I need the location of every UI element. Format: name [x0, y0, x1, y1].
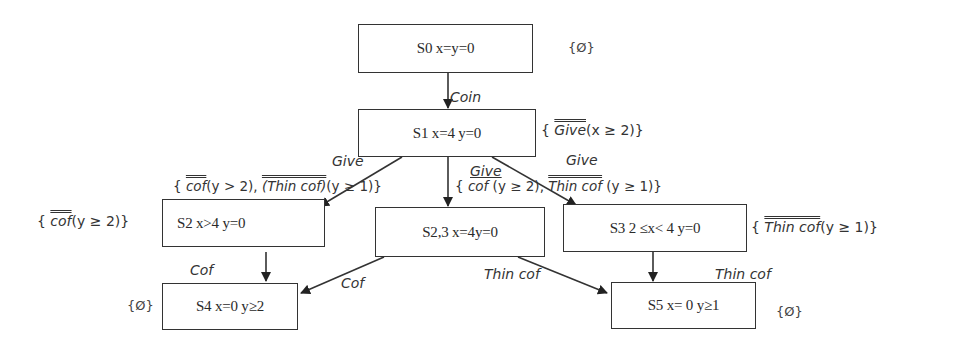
- label-give-s23: Give: [470, 163, 502, 179]
- set-s2: { cof(y ≥ 2)}: [37, 213, 129, 229]
- state-s4-label: S4 x=0 y≥2: [196, 298, 264, 315]
- set-edge-s23: { cof (y ≥ 2), Thin cof (y ≥ 1)}: [455, 178, 662, 194]
- state-s4: S4 x=0 y≥2: [162, 283, 298, 330]
- state-s23: S2,3 x=4y=0: [375, 207, 545, 257]
- state-s1-label: S1 x=4 y=0: [413, 125, 481, 142]
- label-give-s3: Give: [566, 152, 598, 168]
- set-s4: {Ø}: [127, 298, 154, 313]
- set-edge-s2: { cof(y > 2), (Thin cof)(y ≥ 1)}: [173, 178, 382, 194]
- label-cof-s2: Cof: [190, 262, 213, 278]
- state-s3: S3 2 ≤x< 4 y=0: [563, 204, 747, 252]
- set-s3: { Thin cof(y ≥ 1)}: [751, 219, 878, 235]
- set-s1: { Give(x ≥ 2)}: [541, 122, 644, 138]
- label-coin: Coin: [450, 89, 481, 105]
- label-thincof-s23: Thin cof: [484, 266, 540, 282]
- state-s23-label: S2,3 x=4y=0: [422, 224, 498, 241]
- state-s1: S1 x=4 y=0: [358, 109, 536, 157]
- set-s0: {Ø}: [568, 40, 595, 55]
- state-s2-label: S2 x>4 y=0: [177, 215, 245, 232]
- state-s0-label: S0 x=y=0: [417, 40, 474, 57]
- state-s5: S5 x= 0 y≥1: [611, 282, 756, 329]
- label-give-s2: Give: [332, 153, 364, 169]
- set-s1-action: Give: [554, 122, 586, 138]
- label-thincof-s3: Thin cof: [715, 266, 771, 282]
- label-cof-s23: Cof: [341, 275, 364, 291]
- state-s0: S0 x=y=0: [358, 24, 533, 73]
- set-s5: {Ø}: [776, 304, 803, 319]
- state-s5-label: S5 x= 0 y≥1: [648, 297, 720, 314]
- state-s3-label: S3 2 ≤x< 4 y=0: [610, 220, 701, 237]
- state-s2: S2 x>4 y=0: [162, 199, 325, 247]
